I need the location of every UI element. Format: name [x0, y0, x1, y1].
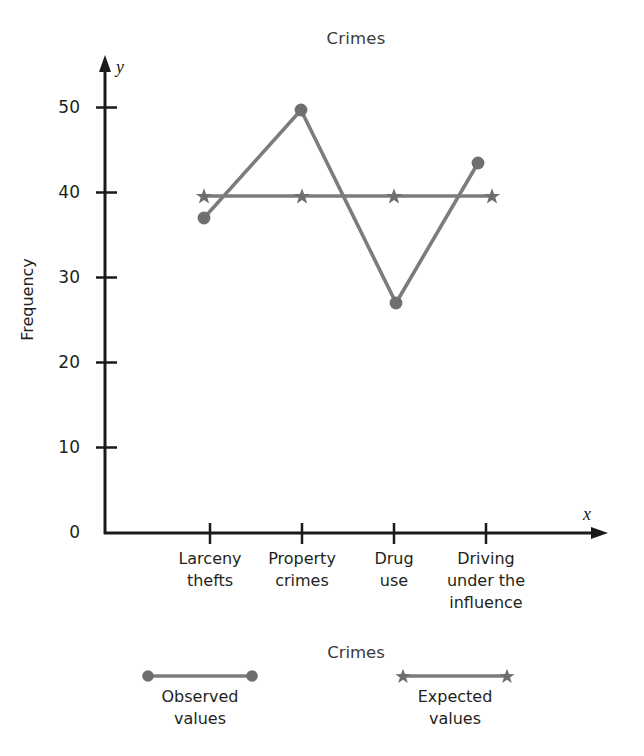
- x-tick-label-driving-under-the-influence: Driving under the influence: [416, 548, 556, 614]
- y-axis-title: Frequency: [18, 240, 37, 360]
- x-axis-letter: x: [583, 504, 591, 525]
- y-tick-label-10: 10: [34, 437, 80, 457]
- y-tick-label-0: 0: [34, 522, 80, 542]
- legend-item-expected-values: Expected values: [370, 668, 540, 730]
- legend-label-line: Observed: [115, 686, 285, 708]
- legend-label-line: values: [115, 708, 285, 730]
- y-tick-label-50: 50: [34, 97, 80, 117]
- y-tick-label-40: 40: [34, 182, 80, 202]
- y-axis: [99, 55, 111, 534]
- x-axis-title: Crimes: [0, 643, 644, 662]
- x-tick-label-line: Driving: [416, 548, 556, 570]
- series-observed-markers: [198, 104, 485, 310]
- legend-swatch-observed: [140, 668, 260, 684]
- legend-swatch-expected: [395, 668, 515, 684]
- y-tick-label-30: 30: [34, 267, 80, 287]
- legend-item-observed-values: Observed values: [115, 668, 285, 730]
- legend-label-line: Expected: [370, 686, 540, 708]
- x-tick-label-line: influence: [416, 592, 556, 614]
- x-axis: [104, 527, 608, 539]
- y-tick-label-20: 20: [34, 352, 80, 372]
- x-tick-label-line: under the: [416, 570, 556, 592]
- legend-label-line: values: [370, 708, 540, 730]
- y-axis-letter: y: [116, 57, 124, 78]
- series-observed-values: [198, 104, 485, 310]
